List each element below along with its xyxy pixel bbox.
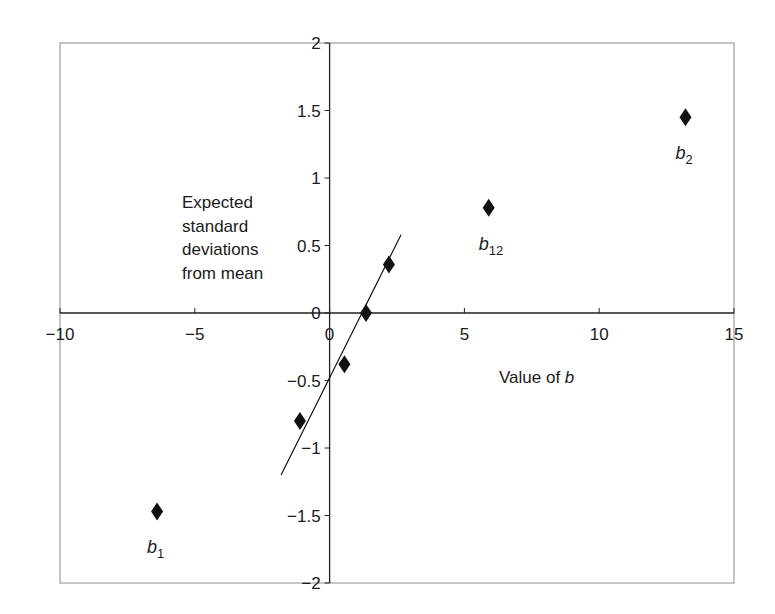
y-tick-label: 0.5 <box>297 237 321 256</box>
normal-probability-plot: −10−5051015−2−1.5−1−0.500.511.52 b1b12b2… <box>0 0 775 614</box>
y-tick-label: 1.5 <box>297 102 321 121</box>
diamond-marker <box>360 304 372 322</box>
x-tick-label: 15 <box>725 325 744 344</box>
y-tick-label: −2 <box>301 574 320 593</box>
diamond-marker <box>483 199 495 217</box>
point-label: b1 <box>147 537 164 561</box>
y-tick-label: 0 <box>311 304 320 323</box>
point-label: b2 <box>675 143 692 167</box>
y-tick-label: 1 <box>311 169 320 188</box>
y-axis-title-line: deviations <box>182 240 259 259</box>
x-tick-label: 0 <box>325 325 334 344</box>
y-axis-title-line: standard <box>182 217 248 236</box>
fit-line <box>281 235 401 475</box>
y-axis-title-line: Expected <box>182 193 253 212</box>
diamond-marker <box>679 108 691 126</box>
point-label: b12 <box>479 234 503 258</box>
x-tick-label: 5 <box>460 325 469 344</box>
reference-line <box>281 235 401 475</box>
x-tick-label: −10 <box>46 325 75 344</box>
diamond-marker <box>383 255 395 273</box>
x-axis-title: Value of b <box>499 368 574 387</box>
diamond-marker <box>338 355 350 373</box>
x-tick-label: −5 <box>185 325 204 344</box>
data-points <box>151 108 691 520</box>
y-tick-label: −1 <box>301 439 320 458</box>
axis-annotations: Expectedstandarddeviationsfrom meanValue… <box>182 193 574 387</box>
y-tick-label: −1.5 <box>287 507 321 526</box>
diamond-marker <box>294 412 306 430</box>
axes: −10−5051015−2−1.5−1−0.500.511.52 <box>46 34 744 593</box>
diamond-marker <box>151 502 163 520</box>
y-axis-title-line: from mean <box>182 264 263 283</box>
y-tick-label: −0.5 <box>287 372 321 391</box>
x-tick-label: 10 <box>590 325 609 344</box>
y-tick-label: 2 <box>311 34 320 53</box>
